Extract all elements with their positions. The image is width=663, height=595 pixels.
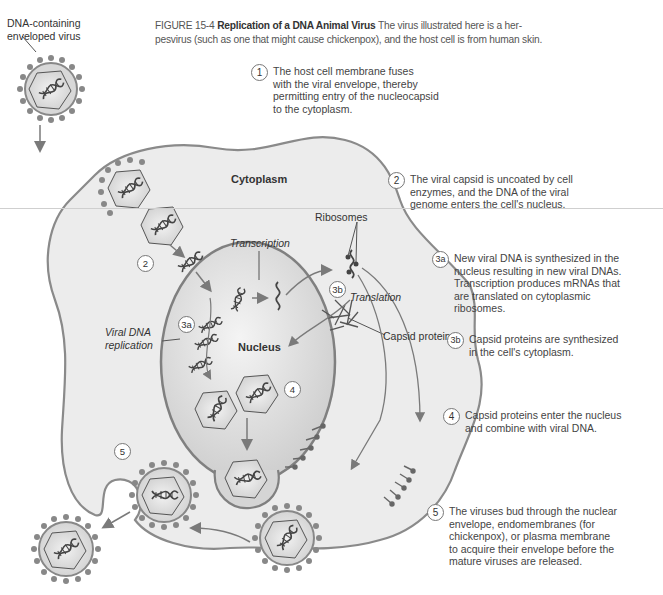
step-1-line: with the viral envelope, thereby: [273, 78, 439, 91]
step-4-description: 4 Capsid proteins enter the nucleus and …: [465, 409, 621, 434]
step-1-line: permitting entry of the nucleocapsid: [273, 90, 439, 103]
nucleus: [161, 242, 335, 482]
caption-text-2: pesvirus (such as one that might cause c…: [155, 34, 542, 45]
step-3b-line: Capsid proteins are synthesized: [469, 333, 618, 346]
step-5-number: 5: [427, 504, 444, 521]
marker-step-3a: 3a: [178, 316, 195, 333]
step-2-line: genome enters the cell's nucleus.: [410, 198, 573, 211]
step-2-number: 2: [388, 172, 405, 189]
viral-dna-replication-line1: Viral DNA: [105, 326, 153, 339]
marker-step-2: 2: [137, 255, 154, 272]
step-3a-number: 3a: [432, 251, 449, 268]
step-2-line: The viral capsid is uncoated by cell: [410, 173, 573, 186]
step-5-line: to acquire their envelope before the: [449, 543, 617, 556]
step-3b-line: in the cell's cytoplasm.: [469, 346, 618, 359]
viral-dna-replication-label: Viral DNA replication: [105, 326, 153, 352]
viral-dna-replication-line2: replication: [105, 339, 153, 352]
step-3a-line: nucleus resulting in new viral DNAs.: [454, 265, 622, 278]
free-virus-entering: [17, 55, 85, 123]
step-3b-description: 3b Capsid proteins are synthesized in th…: [469, 333, 618, 358]
step-5-line: The viruses bud through the nuclear: [449, 505, 617, 518]
ribosomes-label: Ribosomes: [315, 211, 368, 223]
step-1-number: 1: [251, 64, 268, 81]
step-4-number: 4: [443, 408, 460, 425]
step-5-line: chickenpox), or plasma membrane: [449, 530, 617, 543]
step-3a-line: are translated on cytoplasmic: [454, 290, 622, 303]
translation-label: Translation: [350, 291, 401, 303]
figure-caption: FIGURE 15-4 Replication of a DNA Animal …: [155, 19, 655, 47]
step-1-description: 1 The host cell membrane fuses with the …: [273, 65, 439, 115]
step-5-description: 5 The viruses bud through the nuclear en…: [449, 505, 617, 568]
released-virus: [31, 514, 101, 584]
step-3a-line: New viral DNA is synthesized in the: [454, 252, 622, 265]
step-4-line: and combine with viral DNA.: [465, 422, 621, 435]
capsid-proteins-label: Capsid proteins: [383, 330, 456, 342]
step-2-description: 2 The viral capsid is uncoated by cell e…: [410, 173, 573, 211]
marker-step-4: 4: [284, 381, 301, 398]
caption-text-1: The virus illustrated here is a her-: [378, 20, 522, 31]
virus-label: DNA-containing enveloped virus: [7, 17, 81, 43]
virus-label-line2: enveloped virus: [7, 30, 81, 43]
cytoplasm-label: Cytoplasm: [231, 173, 287, 185]
step-1-line: The host cell membrane fuses: [273, 65, 439, 78]
step-5-line: envelope, endomembranes (for: [449, 518, 617, 531]
step-4-line: Capsid proteins enter the nucleus: [465, 409, 621, 422]
marker-step-3b: 3b: [329, 281, 346, 298]
nucleus-label: Nucleus: [238, 341, 281, 353]
marker-step-5: 5: [114, 443, 131, 460]
virus-label-line1: DNA-containing: [7, 17, 81, 30]
enveloped-virus-in-cytoplasm: [252, 503, 322, 573]
step-3b-number: 3b: [447, 332, 464, 349]
figure-number: FIGURE 15-4: [155, 20, 215, 31]
budding-virus: [129, 460, 199, 530]
step-1-line: to the cytoplasm.: [273, 103, 439, 116]
transcription-label: Transcription: [230, 237, 290, 249]
step-5-line: mature viruses are released.: [449, 555, 617, 568]
step-2-line: enzymes, and the DNA of the viral: [410, 186, 573, 199]
figure-title: Replication of a DNA Animal Virus: [217, 20, 375, 31]
step-3a-line: Transcription produces mRNAs that: [454, 277, 622, 290]
step-3a-description: 3a New viral DNA is synthesized in the n…: [454, 252, 622, 315]
step-3a-line: ribosomes.: [454, 302, 622, 315]
